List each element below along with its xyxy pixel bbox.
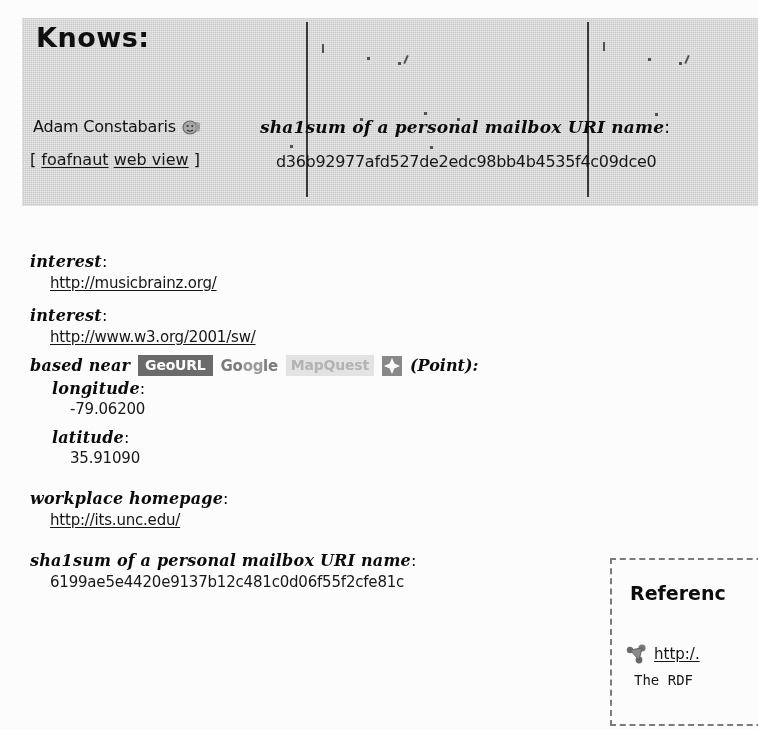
- based-near-row: based near GeoURL Google MapQuest (Point…: [30, 355, 630, 376]
- references-item: http:/.: [626, 644, 700, 664]
- interest-link-2[interactable]: http://www.w3.org/2001/sw/: [50, 328, 256, 346]
- references-box: Referenc http:/. The RDF: [610, 558, 758, 726]
- workplace-homepage-label-text: workplace homepage: [30, 489, 223, 508]
- scan-speck: [648, 58, 651, 61]
- interest-label-text-1: interest: [30, 252, 102, 271]
- references-subtext: The RDF: [634, 672, 693, 688]
- bracket-close: ]: [194, 150, 200, 169]
- workplace-homepage-label: workplace homepage:: [30, 489, 630, 508]
- scan-speck: [424, 112, 427, 115]
- workplace-homepage-link[interactable]: http://its.unc.edu/: [50, 511, 180, 529]
- mbox-sha1-colon: :: [411, 551, 417, 570]
- references-title: Referenc: [630, 582, 726, 604]
- latitude-colon: :: [124, 428, 130, 447]
- interest-label-1: interest:: [30, 252, 630, 271]
- interest-value-2: http://www.w3.org/2001/sw/: [50, 328, 630, 346]
- header-sha1-label: sha1sum of a personal mailbox URI name: [260, 117, 664, 137]
- interest-colon-1: :: [102, 252, 108, 271]
- scan-speck: [430, 146, 433, 149]
- longitude-label: longitude:: [52, 379, 630, 398]
- interest-link-1[interactable]: http://musicbrainz.org/: [50, 274, 217, 292]
- point-text: (Point):: [410, 356, 478, 375]
- scan-speck: [398, 62, 401, 65]
- person-smiley-icon: [182, 118, 203, 136]
- longitude-colon: :: [140, 379, 146, 398]
- google-badge[interactable]: Google: [221, 357, 278, 375]
- mbox-sha1-label-text: sha1sum of a personal mailbox URI name: [30, 551, 411, 570]
- interest-colon-2: :: [102, 306, 108, 325]
- bracket-open: [: [30, 150, 36, 169]
- workplace-homepage-value: http://its.unc.edu/: [50, 511, 630, 529]
- scan-speck: [679, 62, 682, 65]
- longitude-label-text: longitude: [52, 379, 140, 398]
- mapquest-badge[interactable]: MapQuest: [286, 355, 374, 376]
- web-view-link[interactable]: web view: [114, 150, 189, 169]
- scan-speck: [322, 44, 324, 53]
- references-link[interactable]: http:/.: [654, 645, 700, 663]
- geo-fields: longitude: -79.06200 latitude: 35.91090: [52, 379, 630, 467]
- longitude-value: -79.06200: [70, 400, 630, 418]
- header-sha1-value: d36b92977afd527de2edc98bb4b4535f4c09dce0: [276, 152, 656, 171]
- property-list: interest: http://musicbrainz.org/ intere…: [30, 252, 630, 605]
- scanned-page: Knows: Adam Constabaris [ foafnaut web v…: [0, 0, 758, 729]
- interest-label-text-2: interest: [30, 306, 102, 325]
- latitude-label: latitude:: [52, 428, 630, 447]
- header-sha1-colon: :: [664, 117, 670, 137]
- foafnaut-link[interactable]: foafnaut: [41, 150, 108, 169]
- scan-speck: [367, 57, 370, 60]
- scan-speck: [655, 113, 658, 116]
- person-name: Adam Constabaris: [33, 117, 176, 136]
- interest-label-2: interest:: [30, 306, 630, 325]
- map-marker-icon[interactable]: [382, 356, 402, 376]
- person-name-row: Adam Constabaris: [33, 117, 203, 136]
- based-near-label: based near: [30, 356, 130, 375]
- scan-speck: [603, 42, 605, 51]
- google-badge-label: Google: [221, 357, 278, 375]
- scan-speck: [290, 145, 293, 148]
- page-title: Knows:: [36, 22, 150, 53]
- latitude-value: 35.91090: [70, 449, 630, 467]
- mbox-sha1-label: sha1sum of a personal mailbox URI name:: [30, 551, 630, 570]
- latitude-label-text: latitude: [52, 428, 124, 447]
- rdf-graph-icon: [626, 644, 648, 664]
- geourl-badge[interactable]: GeoURL: [138, 355, 212, 376]
- workplace-colon: :: [223, 489, 229, 508]
- foaf-view-links: [ foafnaut web view ]: [30, 150, 200, 169]
- mbox-sha1-value: 6199ae5e4420e9137b12c481c0d06f55f2cfe81c: [50, 573, 630, 591]
- header-sha1-label-row: sha1sum of a personal mailbox URI name:: [260, 117, 670, 137]
- interest-value-1: http://musicbrainz.org/: [50, 274, 630, 292]
